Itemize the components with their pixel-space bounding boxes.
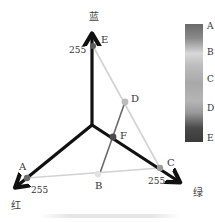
colorbar-label-a: A	[207, 22, 214, 31]
point-b-label: B	[95, 181, 102, 191]
green-axis-max: 255	[148, 177, 165, 186]
red-axis-label: 红	[11, 201, 21, 211]
colorbar-label-e: E	[207, 134, 214, 143]
point-c-label: C	[167, 158, 175, 168]
point-e-label: E	[101, 35, 108, 45]
point-d	[122, 99, 129, 106]
point-a-label: A	[19, 162, 26, 172]
point-e	[90, 43, 96, 49]
edge-a-c	[27, 168, 160, 178]
blue-axis-max: 255	[69, 46, 86, 55]
point-d-label: D	[131, 94, 139, 104]
point-b	[95, 171, 101, 177]
blue-axis-label: 蓝	[89, 12, 99, 22]
rgb-diagram: 蓝 255 红 255 绿 255 A B C D E F A B C D E	[0, 0, 215, 222]
point-f	[110, 134, 117, 141]
red-axis-max: 255	[31, 186, 48, 195]
point-f-label: F	[120, 131, 127, 141]
point-a	[24, 175, 30, 181]
colorbar	[185, 24, 203, 142]
colorbar-label-c: C	[207, 75, 214, 84]
green-axis-label: 绿	[193, 188, 203, 198]
colorbar-label-d: D	[207, 104, 214, 113]
edge-e-c	[93, 46, 160, 168]
faded-caption	[40, 214, 180, 218]
colorbar-label-b: B	[207, 48, 214, 57]
point-c	[157, 165, 163, 171]
